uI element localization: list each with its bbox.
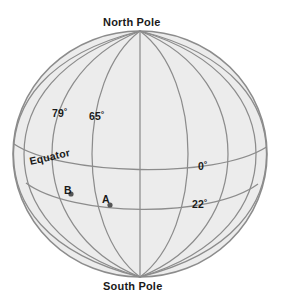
globe-diagram: North Pole South Pole 79˚ 65˚ Equator 0˚… (0, 0, 282, 305)
point-a-label: A (102, 193, 110, 205)
longitude-0-label: 0˚ (198, 160, 208, 172)
south-pole-label: South Pole (103, 280, 162, 292)
latitude-79-label: 79˚ (52, 107, 68, 119)
latitude-65-label: 65˚ (89, 110, 105, 122)
north-pole-label: North Pole (103, 16, 161, 28)
point-b-label: B (64, 184, 72, 196)
longitude-22-label: 22˚ (192, 198, 208, 210)
